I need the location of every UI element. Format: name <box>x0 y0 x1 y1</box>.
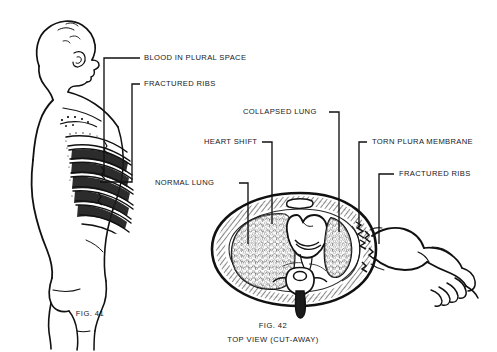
label-heart-shift: HEART SHIFT <box>204 138 257 146</box>
fig41-ribcage <box>65 132 133 240</box>
label-torn-plura-membrane: TORN PLURA MEMBRANE <box>372 138 473 146</box>
label-fractured-ribs-right: FRACTURED RIBS <box>399 170 471 178</box>
caption-fig-42-subtitle: TOP VIEW (CUT-AWAY) <box>213 336 333 344</box>
leader-fractured-ribs-right <box>379 174 394 244</box>
fig42-thorax <box>212 193 376 318</box>
label-normal-lung: NORMAL LUNG <box>155 179 214 187</box>
label-collapsed-lung: COLLAPSED LUNG <box>243 108 317 116</box>
caption-fig-41: FIG. 41 <box>60 310 120 318</box>
fig42-arm-hand <box>370 228 478 307</box>
label-fractured-ribs-left: FRACTURED RIBS <box>144 80 216 88</box>
fig41-scapula <box>60 116 97 127</box>
sternum <box>287 199 313 209</box>
caption-fig-42: FIG. 42 <box>243 322 303 330</box>
label-blood-in-plural-space: BLOOD IN PLURAL SPACE <box>144 54 246 62</box>
illustration-plate: BLOOD IN PLURAL SPACE FRACTURED RIBS COL… <box>0 0 497 352</box>
